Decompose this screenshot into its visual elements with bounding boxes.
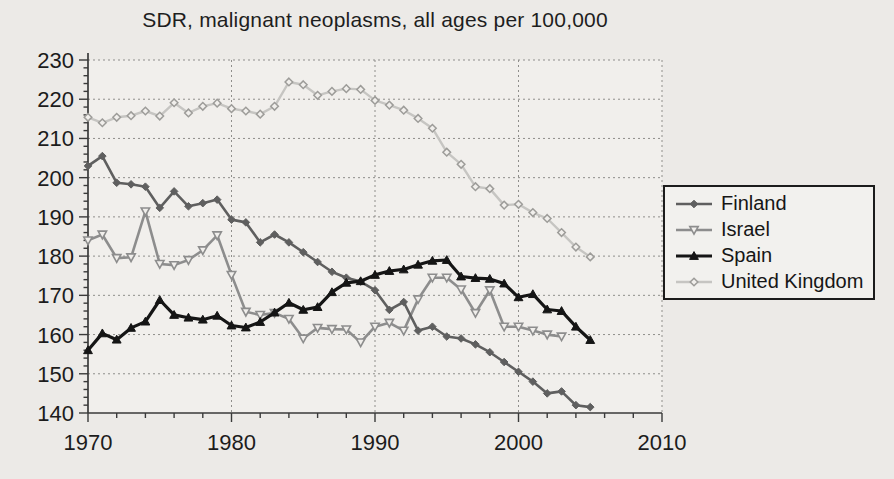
x-tick-label: 2000 bbox=[494, 430, 543, 455]
legend-swatch-0 bbox=[676, 200, 712, 208]
legend-label-finland: Finland bbox=[721, 192, 787, 215]
y-tick-label: 230 bbox=[37, 48, 74, 73]
y-tick-label: 200 bbox=[37, 166, 74, 191]
chart-figure: SDR, malignant neoplasms, all ages per 1… bbox=[0, 0, 894, 479]
united-kingdom-line-marker-swatch bbox=[673, 275, 715, 289]
y-tick-label: 190 bbox=[37, 205, 74, 230]
y-tick-label: 180 bbox=[37, 244, 74, 269]
legend-label-israel: Israel bbox=[721, 218, 770, 241]
y-tick-label: 160 bbox=[37, 323, 74, 348]
y-tick-label: 140 bbox=[37, 401, 74, 426]
legend-item-spain: Spain bbox=[665, 244, 873, 267]
y-tick-label: 170 bbox=[37, 283, 74, 308]
y-tick-label: 150 bbox=[37, 362, 74, 387]
x-tick-label: 1990 bbox=[351, 430, 400, 455]
legend-item-finland: Finland bbox=[665, 192, 873, 215]
israel-line-marker-swatch bbox=[673, 223, 715, 237]
legend-item-israel: Israel bbox=[665, 218, 873, 241]
legend-item-uk: United Kingdom bbox=[665, 270, 873, 293]
legend-swatch-1 bbox=[676, 226, 712, 234]
legend-swatch-3 bbox=[676, 278, 712, 286]
y-tick-label: 210 bbox=[37, 126, 74, 151]
x-tick-label: 1970 bbox=[64, 430, 113, 455]
finland-line-marker-swatch bbox=[673, 197, 715, 211]
legend-box: Finland Israel Spain United Kingdom bbox=[663, 185, 875, 300]
legend-label-uk: United Kingdom bbox=[721, 270, 863, 293]
x-tick-label: 1980 bbox=[207, 430, 256, 455]
legend-swatch-2 bbox=[676, 251, 712, 259]
legend-label-spain: Spain bbox=[721, 244, 772, 267]
x-tick-label: 2010 bbox=[638, 430, 687, 455]
y-tick-label: 220 bbox=[37, 87, 74, 112]
spain-line-marker-swatch bbox=[673, 249, 715, 263]
